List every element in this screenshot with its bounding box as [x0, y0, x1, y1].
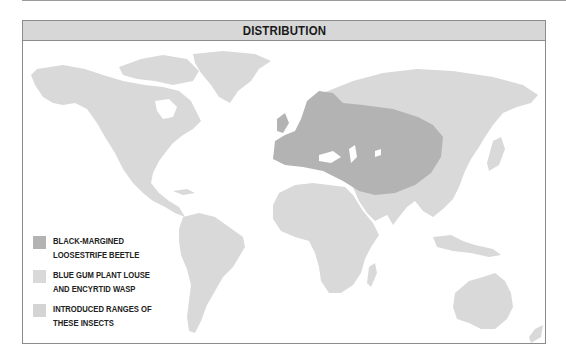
north-america: [31, 65, 201, 217]
world-map: [23, 41, 545, 343]
south-america: [179, 213, 245, 333]
legend-swatch-introduced: [33, 304, 46, 317]
greenland: [193, 51, 271, 103]
legend-label: BLACK-MARGINEDLOOSESTRIFE BEETLE: [53, 234, 161, 262]
legend-label: BLUE GUM PLANT LOUSEAND ENCYRTID WASP: [53, 268, 161, 296]
panel-header: DISTRIBUTION: [23, 21, 545, 41]
canadian-arctic-islands: [119, 55, 199, 85]
japan: [487, 137, 505, 171]
caribbean-islands: [173, 189, 195, 195]
british-isles: [277, 113, 289, 133]
southeast-asia-islands: [433, 235, 501, 257]
legend-swatch-native-range: [33, 236, 46, 249]
panel-title: DISTRIBUTION: [242, 21, 325, 40]
new-zealand: [529, 325, 543, 343]
australia: [453, 273, 513, 329]
distribution-panel: DISTRIBUTION: [22, 20, 546, 344]
legend-swatch-land: [33, 270, 46, 283]
madagascar: [367, 263, 377, 287]
top-rule: [22, 0, 566, 1]
legend-label: INTRODUCED RANGES OFTHESE INSECTS: [53, 302, 161, 330]
